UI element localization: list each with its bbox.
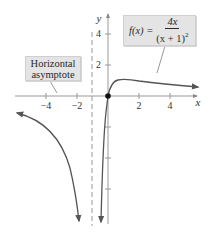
function-callout: f(x) = 4x (x + 1)2 (123, 15, 196, 46)
x-tick-label: 2 (137, 100, 142, 111)
origin-point (105, 93, 111, 99)
y-tick-label: 2 (96, 59, 101, 70)
y-tick-label: 4 (96, 28, 101, 39)
function-callout-pointer (157, 46, 165, 73)
asymptote-callout-pointer (50, 81, 57, 93)
x-tick-label: −2 (72, 100, 83, 111)
curve-right-branch (101, 79, 198, 222)
callout-line: Horizontal (26, 58, 80, 69)
fraction-denominator: (x + 1)2 (156, 29, 188, 45)
denominator-exponent: 2 (185, 31, 189, 39)
x-axis-label: x (195, 96, 201, 108)
x-tick-label: 4 (168, 100, 173, 111)
denominator-base: (x + 1) (156, 33, 185, 44)
curve-left-branch (17, 113, 79, 221)
function-lhs: f(x) = (129, 25, 153, 36)
x-tick-label: −4 (41, 100, 52, 111)
callout-line: asymptote (26, 69, 80, 80)
function-fraction: 4x (x + 1)2 (156, 16, 188, 45)
fraction-numerator: 4x (165, 16, 179, 29)
horizontal-asymptote-callout: Horizontal asymptote (25, 56, 81, 81)
y-axis-label: y (96, 12, 102, 24)
